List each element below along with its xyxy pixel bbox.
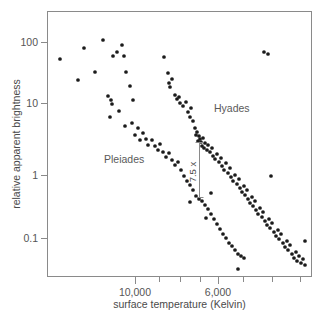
data-point	[228, 166, 232, 170]
data-point	[173, 93, 177, 97]
data-point	[262, 50, 266, 54]
data-point	[109, 98, 113, 102]
data-point	[230, 244, 234, 248]
x-axis-title: surface temperature (Kelvin)	[113, 298, 245, 310]
data-point	[82, 46, 86, 50]
data-point	[251, 204, 255, 208]
data-point	[286, 248, 290, 252]
cluster-label-hyades: Hyades	[214, 102, 250, 114]
data-point	[168, 85, 172, 89]
data-point	[144, 137, 148, 141]
data-point	[122, 54, 126, 58]
data-point	[215, 152, 219, 156]
data-point	[238, 186, 242, 190]
data-point	[226, 171, 230, 175]
data-point	[295, 259, 299, 263]
data-point	[267, 217, 271, 221]
data-point	[170, 77, 174, 81]
data-point	[265, 223, 269, 227]
data-point	[206, 143, 210, 147]
data-point	[290, 252, 294, 256]
data-point	[188, 200, 192, 204]
cluster-label-pleiades: Pleiades	[104, 153, 144, 165]
x-axis-tick-label: 10,000	[119, 286, 151, 298]
data-point	[292, 256, 296, 260]
data-point	[217, 160, 221, 164]
data-point	[138, 138, 142, 142]
data-point	[177, 95, 181, 99]
data-point	[266, 52, 270, 56]
data-point	[279, 232, 283, 236]
data-point	[208, 150, 212, 154]
data-point	[229, 175, 233, 179]
x-axis-tick-label: 6,000	[205, 286, 231, 298]
y-axis-tick-label: 10	[26, 97, 38, 109]
data-point	[120, 43, 124, 47]
data-point	[182, 174, 186, 178]
data-point	[227, 241, 231, 245]
x-axis: 10,0006,000	[119, 277, 301, 298]
ratio-annotation-label: 7.5 x	[187, 161, 198, 182]
data-point	[146, 143, 150, 147]
y-axis: 1001010.1	[20, 36, 47, 244]
data-point	[272, 230, 276, 234]
data-point	[213, 157, 217, 161]
data-point	[285, 239, 289, 243]
data-point	[258, 206, 262, 210]
data-point	[248, 201, 252, 205]
data-point	[161, 150, 165, 154]
data-point	[106, 94, 110, 98]
data-point	[231, 179, 235, 183]
data-point	[153, 144, 157, 148]
data-point	[283, 245, 287, 249]
data-point	[210, 146, 214, 150]
data-point	[235, 182, 239, 186]
ratio-annotation: 7.5 x	[187, 142, 204, 198]
data-point	[218, 227, 222, 231]
data-point	[261, 210, 265, 214]
data-point	[179, 168, 183, 172]
data-point	[222, 168, 226, 172]
data-point	[101, 38, 105, 42]
data-point	[191, 119, 195, 123]
data-point	[233, 248, 237, 252]
data-point	[276, 228, 280, 232]
data-point	[303, 239, 307, 243]
data-point	[242, 256, 246, 260]
chart-figure: 1001010.1 10,0006,000 7.5 x Pleiades Hya…	[0, 0, 328, 317]
data-point	[294, 250, 298, 254]
data-point	[191, 188, 195, 192]
y-axis-tick-label: 100	[20, 36, 38, 48]
data-point	[111, 54, 115, 58]
data-point	[128, 84, 132, 88]
data-point	[167, 151, 171, 155]
data-point	[200, 199, 204, 203]
data-point	[224, 236, 228, 240]
data-point	[117, 109, 121, 113]
plot-frame-rect	[48, 12, 312, 277]
data-point	[204, 216, 208, 220]
data-point	[193, 126, 197, 130]
data-point	[270, 221, 274, 225]
data-point	[242, 184, 246, 188]
data-point	[215, 222, 219, 226]
data-point	[188, 183, 192, 187]
data-point	[224, 161, 228, 165]
data-point	[237, 177, 241, 181]
data-point	[253, 199, 257, 203]
data-point	[131, 98, 135, 102]
data-point	[254, 208, 258, 212]
data-point	[233, 173, 237, 177]
data-point	[166, 71, 170, 75]
data-point	[245, 188, 249, 192]
data-point	[141, 131, 145, 135]
data-point	[164, 155, 168, 159]
data-point	[186, 110, 190, 114]
data-point	[123, 124, 127, 128]
y-axis-title: relative apparent brightness	[10, 79, 22, 209]
data-point	[268, 226, 272, 230]
data-point	[108, 115, 112, 119]
data-point	[260, 215, 264, 219]
data-point	[263, 219, 267, 223]
data-point	[274, 234, 278, 238]
